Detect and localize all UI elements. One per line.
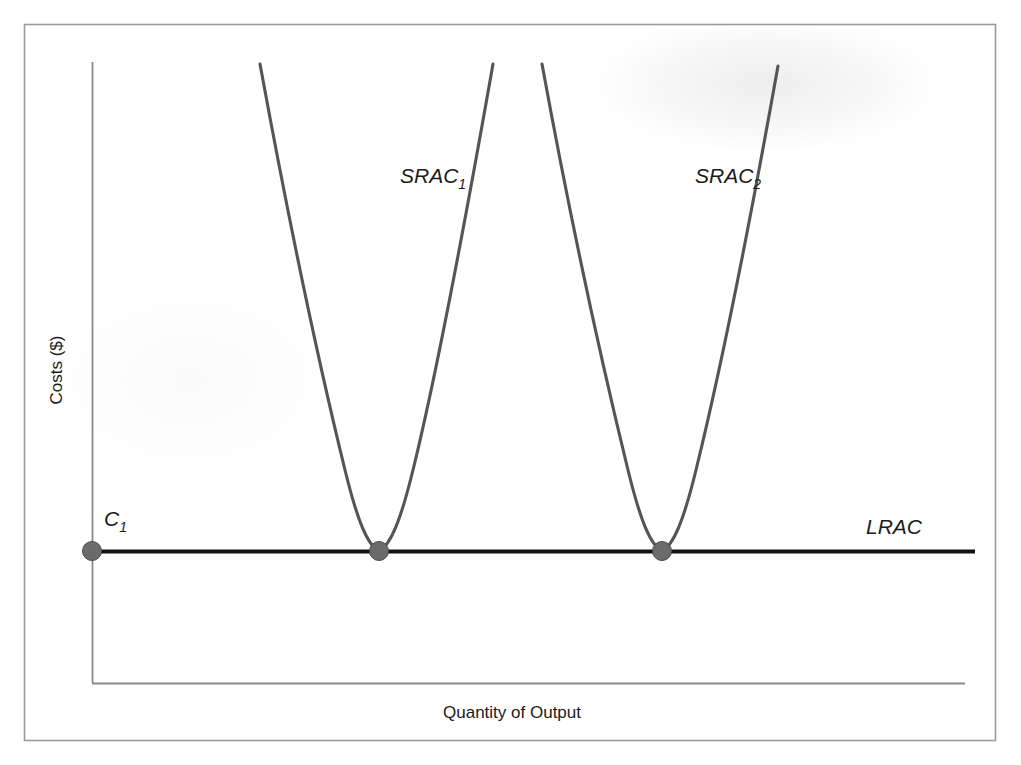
y-axis-label: Costs ($)	[47, 336, 66, 405]
srac1-label: SRAC1	[400, 164, 466, 192]
srac2-label-base: SRAC	[695, 164, 754, 187]
srac2-label-subscript: 2	[752, 176, 761, 192]
srac1-curve	[260, 64, 493, 551]
c1-label-subscript: 1	[119, 519, 127, 535]
lrac-chart-svg: Costs ($) Quantity of Output C1 SRAC1 SR…	[0, 0, 1021, 765]
lrac-label: LRAC	[866, 515, 923, 538]
c1-label: C1	[104, 507, 127, 535]
srac2-tangency-marker	[653, 542, 672, 561]
c1-label-base: C	[104, 507, 120, 530]
srac1-label-subscript: 1	[458, 176, 466, 192]
srac1-label-base: SRAC	[400, 164, 459, 187]
figure-border	[25, 25, 996, 741]
c1-origin-marker	[83, 542, 102, 561]
figure-container: Costs ($) Quantity of Output C1 SRAC1 SR…	[0, 0, 1021, 765]
srac1-tangency-marker	[370, 542, 389, 561]
x-axis-label: Quantity of Output	[443, 703, 581, 722]
srac2-label: SRAC2	[695, 164, 761, 192]
srac2-curve	[542, 64, 778, 551]
